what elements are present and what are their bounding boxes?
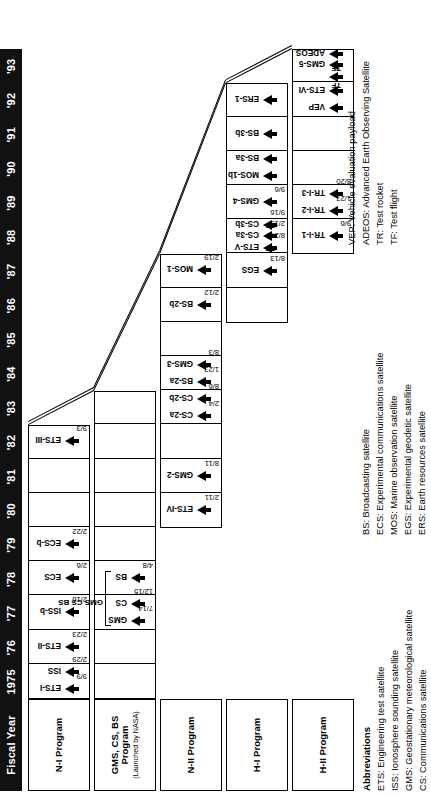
year-header-cell: '79	[0, 527, 22, 562]
launch-arrow-icon	[197, 394, 206, 404]
program-transition-line	[27, 387, 94, 422]
launch-arrow-icon	[197, 360, 206, 370]
year-header-cell: '78	[0, 561, 22, 596]
launch-event-name: ETS-VI	[299, 85, 325, 94]
year-gridline	[29, 458, 89, 459]
launch-event-name: ISS	[48, 666, 61, 675]
launch-arrow-icon	[65, 608, 74, 618]
launch-event-name: BS-3b	[235, 128, 259, 137]
launch-event-name: ETS-V	[235, 242, 259, 251]
launch-event-name: BS-3a	[236, 153, 259, 162]
fiscal-year-corner-label: Fiscal Year	[0, 698, 22, 791]
year-header-cell: '81	[0, 459, 22, 494]
launch-event-name: GMS-5	[299, 59, 325, 68]
launch-arrow-icon	[197, 266, 206, 276]
launch-arrow-icon	[329, 206, 338, 216]
launch-arrow-icon	[263, 231, 272, 241]
program-transition-line	[93, 254, 160, 391]
launch-arrow-icon	[329, 86, 338, 96]
launch-event-date: 9/6	[274, 185, 285, 194]
launch-event-date: 2/12	[204, 288, 219, 297]
launch-event-date: 4/8	[142, 561, 153, 570]
year-gridline	[95, 526, 155, 527]
launch-event-name: GMS-4	[233, 196, 259, 205]
launch-event-name: GMS-3	[167, 359, 193, 368]
program-transition-line	[93, 251, 160, 388]
launch-arrow-icon	[329, 49, 338, 59]
legend-entry: TR: Test rocket	[374, 61, 388, 245]
launch-arrow-icon	[197, 505, 206, 515]
legend-entry: VEP: Vehicle evaluation payload	[346, 61, 360, 245]
year-gridline	[227, 287, 287, 288]
program-transition-line	[159, 80, 226, 251]
launch-event-name: MOS-1	[167, 265, 193, 274]
program-label-text: GMS, CS, BS Program(Launched by NASA)	[110, 700, 140, 790]
legend-entry: ERS: Earth resources satellite	[416, 353, 430, 535]
year-header-cell: '77	[0, 595, 22, 630]
launch-arrow-icon	[263, 197, 272, 207]
launch-arrow-icon	[131, 599, 140, 609]
launch-event-date: 8/3	[208, 348, 219, 357]
launch-event-name: BS-2b	[169, 299, 193, 308]
legend-entry: ECS: Experimental communications satelli…	[374, 353, 388, 535]
launch-arrow-icon	[197, 471, 206, 481]
launch-event-date: 8/13	[270, 254, 285, 263]
program-label-text: N-II Program	[186, 717, 197, 774]
program-track-n-ii: ETS-IV2/11GMS-28/11CS-2a2/4CS-2b8/6BS-2a…	[160, 254, 222, 528]
launch-arrow-icon	[263, 243, 272, 253]
program-label-text: H-I Program	[252, 718, 263, 772]
launch-event-name: ECS	[44, 572, 61, 581]
launch-event-date: 2/22	[72, 527, 87, 536]
launch-arrow-icon	[263, 154, 272, 164]
launch-arrow-icon	[197, 411, 206, 421]
program-transition-line	[159, 83, 226, 254]
year-header-cell: '84	[0, 356, 22, 391]
year-gridline	[95, 492, 155, 493]
launch-event-name: CS-2b	[169, 393, 193, 402]
legend-entry: ETS: Engineering test satellite	[375, 610, 389, 791]
launch-event-name: TR-I-1	[302, 230, 325, 239]
launch-arrow-icon	[329, 189, 338, 199]
launch-event-name: ETS-I	[40, 683, 61, 692]
legend-entry: CS: Communications satellite	[417, 610, 431, 791]
launch-arrow-icon	[329, 231, 338, 241]
year-gridline	[95, 458, 155, 459]
launch-event-date: 12/15	[134, 587, 153, 596]
launch-event-date: 2/23	[72, 630, 87, 639]
launch-event-name: CS-3b	[235, 219, 259, 228]
launch-event-name: ECS-b	[36, 538, 61, 547]
program-track-gms-cs-bs: GMS CS BSGMS7/14CS12/15BS4/8	[94, 391, 156, 699]
program-track-h-i: EGS8/13TFETS-V8/27TFCS-3a2/19CS-3b9/16GM…	[226, 83, 288, 322]
launch-event-name: CS	[116, 598, 127, 607]
year-header-cell: '83	[0, 390, 22, 425]
legend-column-2: BS: Broadcasting satelliteECS: Experimen…	[360, 353, 430, 535]
program-label-gms-cs-bs: GMS, CS, BS Program(Launched by NASA)	[94, 699, 156, 791]
year-header-cell: '93	[0, 48, 22, 83]
launch-event-name: ADEOS	[296, 48, 325, 57]
year-gridline	[29, 492, 89, 493]
program-label-n-ii: N-II Program	[160, 699, 222, 791]
launch-arrow-icon	[65, 684, 74, 694]
legend-entry: GMS: Geostationary meteorological satell…	[403, 610, 417, 791]
launch-event-date: 9/3	[76, 425, 87, 434]
program-track-n-i: ETS-I9/9ISS2/29ETS-II2/23ISS-b2/16ECS2/6…	[28, 425, 90, 699]
program-transition-line	[27, 390, 94, 425]
launch-event-name: TR-I-3	[302, 188, 325, 197]
launch-event-name: BS	[116, 572, 127, 581]
legend-entry: ADEOS: Advanced Earth Observing Satellit…	[360, 61, 374, 245]
launch-arrow-icon	[131, 573, 140, 583]
program-sublabel-text: (Launched by NASA)	[132, 700, 140, 790]
launch-event-name: ETS-III	[36, 436, 61, 445]
launch-arrow-icon	[65, 667, 74, 677]
launch-arrow-icon	[197, 300, 206, 310]
year-gridline	[227, 150, 287, 151]
launch-event-name: TR-I-2	[302, 205, 325, 214]
launch-event-name: CS-3a	[236, 230, 259, 239]
launch-arrow-icon	[263, 220, 272, 230]
launch-event-date: 2/19	[204, 254, 219, 263]
year-header-cell: '89	[0, 185, 22, 220]
year-gridline	[95, 663, 155, 664]
launch-arrow-icon	[65, 573, 74, 583]
launch-event-name: EGS	[242, 265, 259, 274]
year-gridline	[227, 116, 287, 117]
